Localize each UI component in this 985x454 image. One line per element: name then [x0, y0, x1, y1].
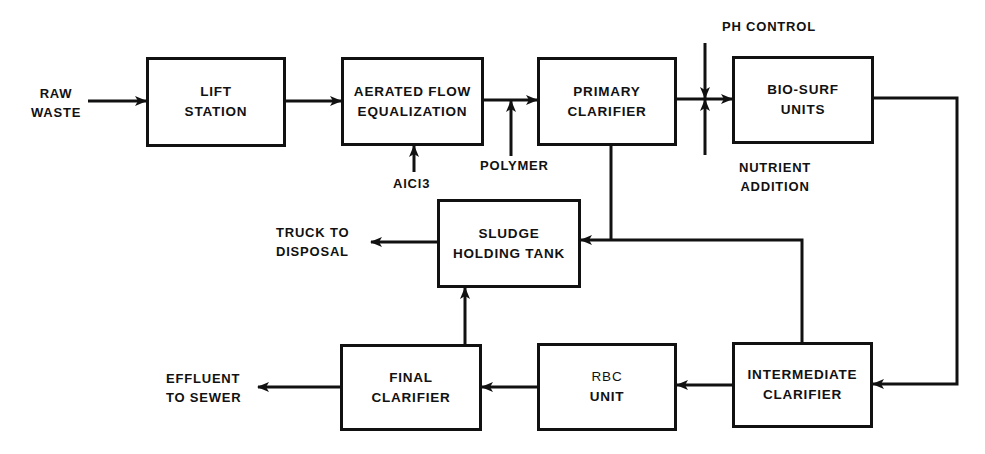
arrow-biosurf-to-intermediate: [873, 98, 957, 384]
node-sludge-holding-tank: SLUDGE HOLDING TANK: [437, 199, 581, 288]
node-label: BIO-SURF: [767, 80, 839, 100]
node-label: LIFT: [200, 82, 232, 102]
label-nutrient-addition: NUTRIENT ADDITION: [730, 158, 820, 196]
node-label: UNITS: [781, 100, 826, 120]
node-label: CLARIFIER: [763, 385, 842, 405]
label-polymer: POLYMER: [480, 156, 549, 175]
node-label: EQUALIZATION: [358, 102, 468, 122]
node-primary-clarifier: PRIMARY CLARIFIER: [537, 57, 677, 146]
node-label: UNIT: [590, 387, 625, 407]
arrow-intermediate-to-sludge: [581, 240, 802, 342]
label-line: TRUCK TO: [276, 223, 349, 242]
node-label: AERATED FLOW: [354, 82, 471, 102]
node-label: STATION: [185, 102, 248, 122]
node-label: CLARIFIER: [371, 388, 450, 408]
label-raw-waste: RAW WASTE: [26, 84, 86, 122]
node-label: INTERMEDIATE: [748, 365, 858, 385]
label-line: RAW: [26, 84, 86, 103]
node-label: CLARIFIER: [567, 102, 646, 122]
label-line: DISPOSAL: [276, 242, 349, 261]
label-line: WASTE: [26, 103, 86, 122]
label-line: EFFLUENT: [166, 369, 242, 388]
node-final-clarifier: FINAL CLARIFIER: [340, 344, 482, 431]
node-label: HOLDING TANK: [453, 244, 565, 264]
node-aerated-flow-equalization: AERATED FLOW EQUALIZATION: [341, 57, 484, 146]
label-truck-to-disposal: TRUCK TO DISPOSAL: [276, 223, 349, 261]
label-effluent-to-sewer: EFFLUENT TO SEWER: [166, 369, 242, 407]
node-label: RBC: [592, 367, 623, 387]
node-label: PRIMARY: [573, 82, 640, 102]
label-line: NUTRIENT: [730, 158, 820, 177]
label-alcl3: AlCl3: [393, 174, 430, 193]
node-label: SLUDGE: [478, 224, 539, 244]
label-line: ADDITION: [730, 177, 820, 196]
node-bio-surf-units: BIO-SURF UNITS: [732, 56, 874, 144]
node-label: FINAL: [389, 368, 433, 388]
process-flow-diagram: LIFT STATION AERATED FLOW EQUALIZATION P…: [0, 0, 985, 454]
node-rbc-unit: RBC UNIT: [537, 343, 677, 431]
label-ph-control: PH CONTROL: [722, 17, 816, 36]
node-intermediate-clarifier: INTERMEDIATE CLARIFIER: [732, 342, 873, 428]
label-line: TO SEWER: [166, 388, 242, 407]
node-lift-station: LIFT STATION: [146, 57, 286, 147]
